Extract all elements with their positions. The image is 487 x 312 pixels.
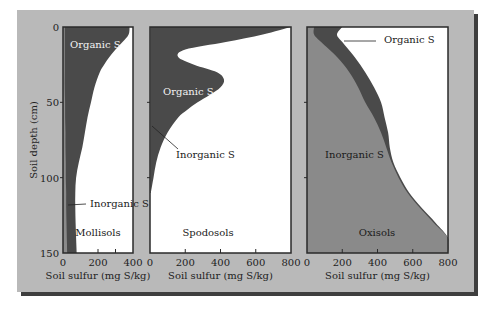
x-tick-label: 400 bbox=[368, 257, 387, 268]
x-tick-label: 800 bbox=[438, 257, 457, 268]
soil-order-label: Spodosols bbox=[182, 227, 233, 238]
x-tick-label: 600 bbox=[246, 257, 265, 268]
x-axis-label: Soil sulfur (mg S/kg) bbox=[325, 270, 430, 281]
organic-s-label: Organic S bbox=[163, 86, 214, 97]
x-tick-label: 200 bbox=[333, 257, 352, 268]
soil-order-label: Oxisols bbox=[359, 227, 396, 238]
x-tick-label: 0 bbox=[60, 257, 66, 268]
organic-s-label: Organic S bbox=[384, 34, 435, 45]
panel-spodosols: 0200400600800Soil sulfur (mg S/kg)Organi… bbox=[147, 27, 301, 281]
y-tick-label: 0 bbox=[53, 22, 59, 33]
y-tick-label: 150 bbox=[40, 248, 59, 259]
organic-s-label: Organic S bbox=[70, 39, 121, 50]
soil-sulfur-figure: 0200400Soil sulfur (mg S/kg)050100150Org… bbox=[0, 0, 487, 312]
inorganic-s-label: Inorganic S bbox=[90, 198, 149, 209]
x-tick-label: 0 bbox=[304, 257, 310, 268]
inorganic-s-label: Inorganic S bbox=[325, 149, 384, 160]
y-tick-label: 100 bbox=[40, 173, 59, 184]
x-tick-label: 400 bbox=[123, 257, 142, 268]
x-axis-label: Soil sulfur (mg S/kg) bbox=[46, 270, 151, 281]
soil-order-label: Mollisols bbox=[75, 227, 120, 238]
panel-oxisols: 0200400600800Soil sulfur (mg S/kg)Organi… bbox=[304, 27, 458, 281]
x-tick-label: 0 bbox=[147, 257, 153, 268]
y-tick-label: 50 bbox=[46, 97, 59, 108]
x-tick-label: 200 bbox=[88, 257, 107, 268]
y-axis-label: Soil depth (cm) bbox=[28, 101, 39, 179]
x-tick-label: 600 bbox=[403, 257, 422, 268]
x-tick-label: 200 bbox=[176, 257, 195, 268]
x-axis-label: Soil sulfur (mg S/kg) bbox=[168, 270, 273, 281]
inorganic-s-label: Inorganic S bbox=[176, 149, 235, 160]
x-tick-label: 800 bbox=[281, 257, 300, 268]
x-tick-label: 400 bbox=[211, 257, 230, 268]
